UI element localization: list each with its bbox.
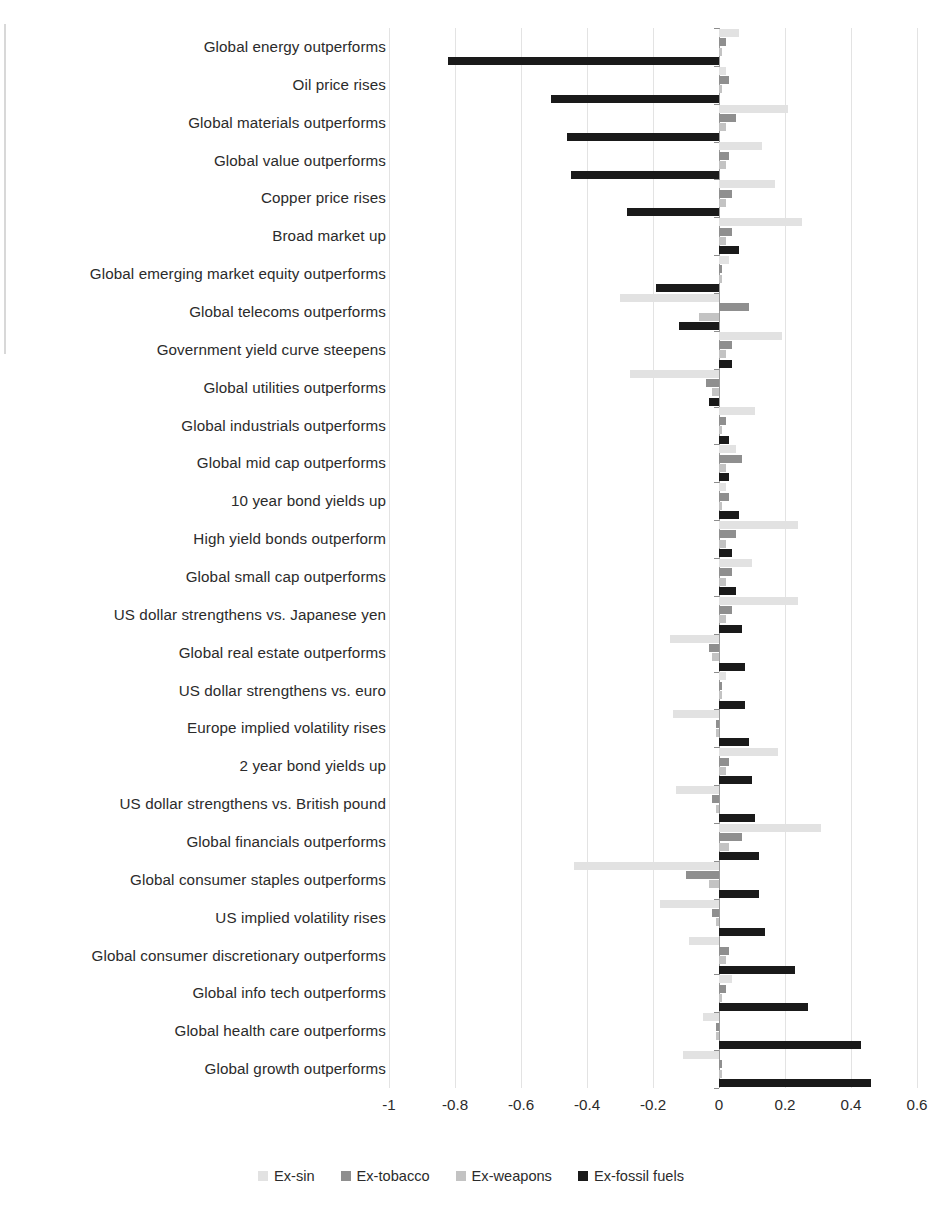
category-label: US dollar strengthens vs. Japanese yen (0, 606, 386, 623)
bar-ex-fossil-fuels (709, 398, 719, 406)
x-tick-label: -0.2 (640, 1096, 666, 1113)
legend-item-ex-sin[interactable]: Ex-sin (258, 1168, 315, 1184)
category-label: 10 year bond yields up (0, 492, 386, 509)
category-label: 2 year bond yields up (0, 757, 386, 774)
category-label: Copper price rises (0, 189, 386, 206)
bar-ex-fossil-fuels (719, 966, 795, 974)
x-tick-label: -0.6 (508, 1096, 534, 1113)
legend-item-ex-tobacco[interactable]: Ex-tobacco (341, 1168, 430, 1184)
category-label: Global emerging market equity outperform… (0, 265, 386, 282)
bar-ex-weapons (716, 729, 719, 737)
category-label: Global utilities outperforms (0, 379, 386, 396)
bar-ex-tobacco (712, 909, 719, 917)
x-tick-label: -0.4 (574, 1096, 600, 1113)
category-label: Global health care outperforms (0, 1022, 386, 1039)
bar-ex-sin (719, 67, 726, 75)
legend-swatch-icon (456, 1171, 466, 1181)
bar-ex-weapons (699, 313, 719, 321)
bar-ex-fossil-fuels (719, 511, 739, 519)
bar-ex-sin (719, 483, 726, 491)
category-label: US dollar strengthens vs. British pound (0, 795, 386, 812)
bar-ex-sin (719, 180, 775, 188)
bar-ex-sin (676, 786, 719, 794)
bar-ex-sin (703, 1013, 720, 1021)
x-tick-label: -0.8 (442, 1096, 468, 1113)
bar-ex-weapons (719, 237, 726, 245)
bar-ex-sin (660, 900, 719, 908)
bar-ex-tobacco (719, 682, 722, 690)
bar-ex-sin (620, 294, 719, 302)
category-label: Global materials outperforms (0, 114, 386, 131)
bar-ex-tobacco (719, 1060, 722, 1068)
plot-area (389, 28, 917, 1088)
bar-ex-weapons (719, 1070, 722, 1078)
legend-label: Ex-weapons (472, 1168, 552, 1184)
bar-ex-tobacco (686, 871, 719, 879)
category-label: Global consumer staples outperforms (0, 871, 386, 888)
bar-ex-weapons (719, 843, 729, 851)
x-tick-label: -1 (382, 1096, 396, 1113)
bar-ex-sin (719, 672, 726, 680)
legend-item-ex-weapons[interactable]: Ex-weapons (456, 1168, 552, 1184)
bar-ex-tobacco (719, 152, 729, 160)
bar-ex-sin (719, 824, 821, 832)
category-label: Oil price rises (0, 76, 386, 93)
category-label: Global real estate outperforms (0, 644, 386, 661)
bar-ex-fossil-fuels (719, 1003, 808, 1011)
gridline (917, 28, 918, 1088)
x-tick-label: 0 (715, 1096, 723, 1113)
category-label: Global industrials outperforms (0, 417, 386, 434)
bar-ex-fossil-fuels (719, 738, 749, 746)
category-label: Global small cap outperforms (0, 568, 386, 585)
bar-ex-fossil-fuels (719, 587, 736, 595)
bar-ex-sin (719, 218, 802, 226)
bar-ex-tobacco (719, 114, 736, 122)
bar-ex-tobacco (719, 417, 726, 425)
legend-swatch-icon (258, 1171, 268, 1181)
x-tick-label: 0.2 (774, 1096, 795, 1113)
bar-ex-tobacco (719, 493, 729, 501)
category-label: US dollar strengthens vs. euro (0, 682, 386, 699)
bar-ex-fossil-fuels (719, 814, 755, 822)
bar-ex-sin (719, 975, 732, 983)
bar-ex-tobacco (719, 455, 742, 463)
bar-ex-weapons (709, 880, 719, 888)
bar-ex-sin (719, 445, 736, 453)
bar-ex-sin (630, 370, 719, 378)
bar-ex-weapons (719, 464, 726, 472)
legend-swatch-icon (578, 1171, 588, 1181)
category-label: Global info tech outperforms (0, 984, 386, 1001)
bar-ex-fossil-fuels (719, 246, 739, 254)
category-label: Broad market up (0, 227, 386, 244)
bar-ex-weapons (719, 426, 722, 434)
bar-ex-sin (673, 710, 719, 718)
category-label: Global value outperforms (0, 152, 386, 169)
bar-ex-fossil-fuels (719, 360, 732, 368)
gridline (785, 28, 786, 1088)
bar-ex-sin (719, 29, 739, 37)
bar-ex-weapons (719, 767, 726, 775)
bar-ex-weapons (719, 502, 722, 510)
bar-ex-sin (689, 937, 719, 945)
bar-ex-tobacco (719, 303, 749, 311)
bar-ex-weapons (719, 994, 722, 1002)
bar-ex-weapons (719, 161, 726, 169)
bar-ex-fossil-fuels (719, 473, 729, 481)
bar-ex-sin (683, 1051, 719, 1059)
bar-ex-weapons (719, 691, 722, 699)
bar-ex-sin (719, 332, 782, 340)
category-label: Europe implied volatility rises (0, 719, 386, 736)
legend-item-ex-fossil-fuels[interactable]: Ex-fossil fuels (578, 1168, 684, 1184)
bar-ex-fossil-fuels (719, 436, 729, 444)
category-label: Global consumer discretionary outperform… (0, 947, 386, 964)
bar-ex-weapons (719, 48, 722, 56)
bar-ex-tobacco (719, 38, 726, 46)
bar-ex-tobacco (716, 720, 719, 728)
bar-ex-fossil-fuels (719, 928, 765, 936)
bar-ex-sin (719, 407, 755, 415)
bar-ex-tobacco (719, 606, 732, 614)
category-label: US implied volatility rises (0, 909, 386, 926)
bar-ex-fossil-fuels (719, 663, 745, 671)
category-label: Global telecoms outperforms (0, 303, 386, 320)
bar-ex-weapons (719, 275, 722, 283)
